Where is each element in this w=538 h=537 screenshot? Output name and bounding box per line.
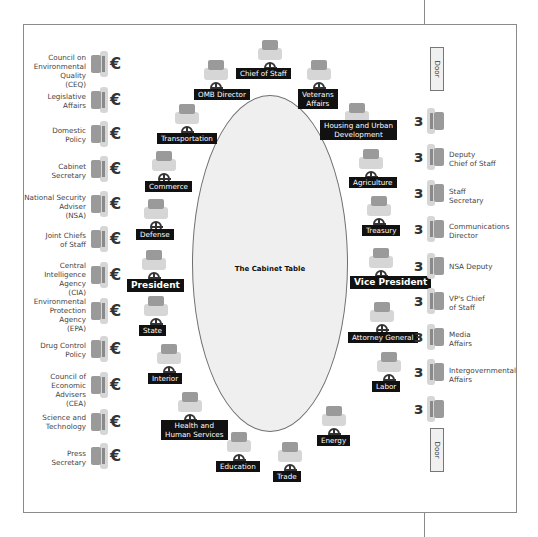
wall-chair-icon: €	[91, 336, 121, 362]
chair-seat	[430, 185, 433, 201]
wall-chair-icon: €	[91, 443, 121, 469]
wall-chair-icon: з	[414, 359, 444, 385]
chair-back	[91, 447, 101, 465]
chair-legs: €	[110, 57, 121, 71]
wall-seat-label-deputy-chief-of-staff: DeputyChief of Staff	[449, 150, 538, 168]
wall-chair-icon: з	[414, 144, 444, 170]
chair-icon	[368, 302, 396, 334]
chair-back	[434, 257, 444, 275]
chair-legs: €	[110, 197, 121, 211]
chair-icon	[173, 104, 201, 136]
seat-label-labor: Labor	[372, 381, 400, 392]
chair-legs: €	[110, 127, 121, 141]
chair-legs: з	[414, 294, 423, 308]
wall-seat-label-nsa: National SecurityAdviser(NSA)	[16, 193, 86, 220]
chair-back	[434, 220, 444, 238]
seat-label-state: State	[139, 325, 166, 336]
table-label: The Cabinet Table	[192, 265, 348, 273]
chair-legs: €	[110, 268, 121, 282]
seat-label-attorney-general: Attorney General	[348, 332, 418, 343]
chair-icon	[140, 250, 168, 282]
chair-legs: з	[414, 186, 423, 200]
chair-seat	[102, 448, 105, 464]
seat-label-commerce: Commerce	[145, 181, 192, 192]
cabinet-table	[192, 95, 348, 432]
wall-seat-label-cabinet-secretary: CabinetSecretary	[16, 162, 86, 180]
chair-back	[91, 55, 101, 73]
chair-icon	[150, 151, 178, 183]
chair-legs: з	[414, 222, 423, 236]
chair-back	[182, 392, 198, 402]
seat-label-interior: Interior	[148, 373, 182, 384]
wall-chair-icon: €	[91, 298, 121, 324]
chair-back	[91, 195, 101, 213]
chair-back	[434, 112, 444, 130]
chair-back	[91, 91, 101, 109]
chair-back	[349, 103, 365, 113]
seat-label-president: President	[127, 279, 184, 292]
wall-seat-label-cea: Council ofEconomicAdvisers(CEA)	[16, 372, 86, 408]
chair-icon	[375, 352, 403, 384]
chair-legs: з	[414, 365, 423, 379]
wall-chair-icon: з	[414, 253, 444, 279]
chair-back	[161, 344, 177, 354]
seat-label-trade: Trade	[273, 471, 301, 482]
chair-seat	[430, 221, 433, 237]
chair-back	[363, 149, 379, 159]
seat-label-transportation: Transportation	[157, 133, 217, 144]
seat-label-chief-of-staff: Chief of Staff	[236, 68, 291, 79]
chair-seat	[430, 258, 433, 274]
chair-back	[311, 60, 327, 70]
chair-back	[91, 160, 101, 178]
chair-seat	[102, 414, 105, 430]
chair-seat	[102, 303, 105, 319]
chair-seat	[102, 377, 105, 393]
chair-seat	[430, 293, 433, 309]
chair-icon	[155, 344, 183, 376]
chair-back	[434, 328, 444, 346]
chair-icon	[276, 442, 304, 474]
chair-seat	[102, 161, 105, 177]
wall-seat-label-domestic-policy: DomesticPolicy	[16, 126, 86, 144]
wall-seat-label-press-secretary: PressSecretary	[16, 449, 86, 467]
wall-seat-label-media-affairs: MediaAffairs	[449, 330, 538, 348]
chair-legs: з	[414, 330, 423, 344]
chair-seat	[430, 329, 433, 345]
wall-chair-icon: €	[91, 372, 121, 398]
wall-seat-label-science-technology: Science andTechnology	[16, 413, 86, 431]
wall-chair-icon: з	[414, 216, 444, 242]
wall-seat-label-nsa-deputy: NSA Deputy	[449, 262, 538, 271]
wall-chair-icon: з	[414, 180, 444, 206]
chair-legs: €	[110, 449, 121, 463]
wall-seat-label-vps-chief-of-staff: VP's Chiefof Staff	[449, 294, 538, 312]
chair-back	[91, 302, 101, 320]
seat-label-education: Education	[216, 461, 260, 472]
door-bottom: Door	[430, 428, 444, 472]
chair-back	[148, 199, 164, 209]
wall-seat-label-drug-control: Drug ControlPolicy	[16, 341, 86, 359]
chair-back	[91, 413, 101, 431]
chair-back	[371, 196, 387, 206]
wall-chair-icon: €	[91, 226, 121, 252]
wall-seat-label-legislative-affairs: LegislativeAffairs	[16, 92, 86, 110]
chair-back	[434, 292, 444, 310]
chair-icon	[142, 296, 170, 328]
chair-back	[373, 248, 389, 258]
chair-seat	[102, 341, 105, 357]
chair-seat	[102, 196, 105, 212]
chair-back	[434, 148, 444, 166]
chair-icon	[225, 432, 253, 464]
seat-label-health-human-services: Health andHuman Services	[161, 420, 228, 440]
chair-back	[208, 60, 224, 70]
wall-seat-label-cia: CentralIntelligenceAgency(CIA)	[16, 261, 86, 297]
chair-back	[91, 376, 101, 394]
chair-seat	[102, 56, 105, 72]
wall-chair-icon: €	[91, 191, 121, 217]
wall-chair-icon: €	[91, 87, 121, 113]
chair-seat	[430, 364, 433, 380]
wall-chair-icon: €	[91, 51, 121, 77]
chair-back	[91, 230, 101, 248]
wall-chair-icon: з	[414, 108, 444, 134]
chair-seat	[430, 401, 433, 417]
wall-seat-label-epa: EnvironmentalProtectionAgency(EPA)	[16, 297, 86, 333]
